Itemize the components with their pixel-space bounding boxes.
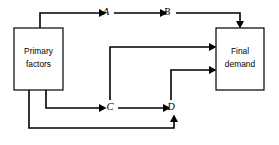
box-primary-factors-label-line1: Primary: [24, 46, 54, 56]
edge-primary-to-c-line: [46, 90, 99, 108]
edge-d-to-final-demand-line: [171, 70, 209, 100]
box-primary-factors-label-line2: factors: [26, 59, 51, 69]
edge-primary-to-c: [46, 90, 107, 112]
node-label-c: C: [106, 101, 114, 112]
flow-diagram: Primary factors Final demand A B C D: [0, 0, 279, 145]
edge-a-to-b: [114, 9, 168, 17]
edge-c-to-d: [118, 104, 171, 112]
edge-d-to-final-demand-arrowhead: [209, 66, 217, 74]
box-final-demand-label-line2: demand: [225, 59, 256, 69]
edge-b-to-final-demand: [176, 13, 244, 29]
edge-primary-to-d-arrowhead: [170, 115, 178, 123]
box-primary-factors[interactable]: Primary factors: [14, 28, 63, 90]
edge-b-to-final-demand-arrowhead: [236, 21, 244, 29]
edge-primary-to-a: [40, 9, 107, 28]
node-label-d: D: [166, 101, 175, 112]
diagram-canvas: Primary factors Final demand A B C D: [0, 0, 279, 145]
edge-primary-to-c-arrowhead: [99, 104, 107, 112]
box-final-demand-label-line1: Final: [231, 46, 249, 56]
edge-c-to-final-demand-line: [110, 47, 209, 100]
edge-c-to-final-demand-arrowhead: [209, 43, 217, 51]
node-label-b: B: [164, 6, 171, 17]
box-final-demand[interactable]: Final demand: [216, 28, 264, 90]
node-label-a: A: [102, 6, 110, 17]
edge-c-to-final-demand: [110, 43, 217, 100]
edge-d-to-final-demand: [171, 66, 217, 100]
edge-primary-to-a-line: [40, 13, 99, 28]
edge-b-to-final-demand-line: [176, 13, 240, 21]
